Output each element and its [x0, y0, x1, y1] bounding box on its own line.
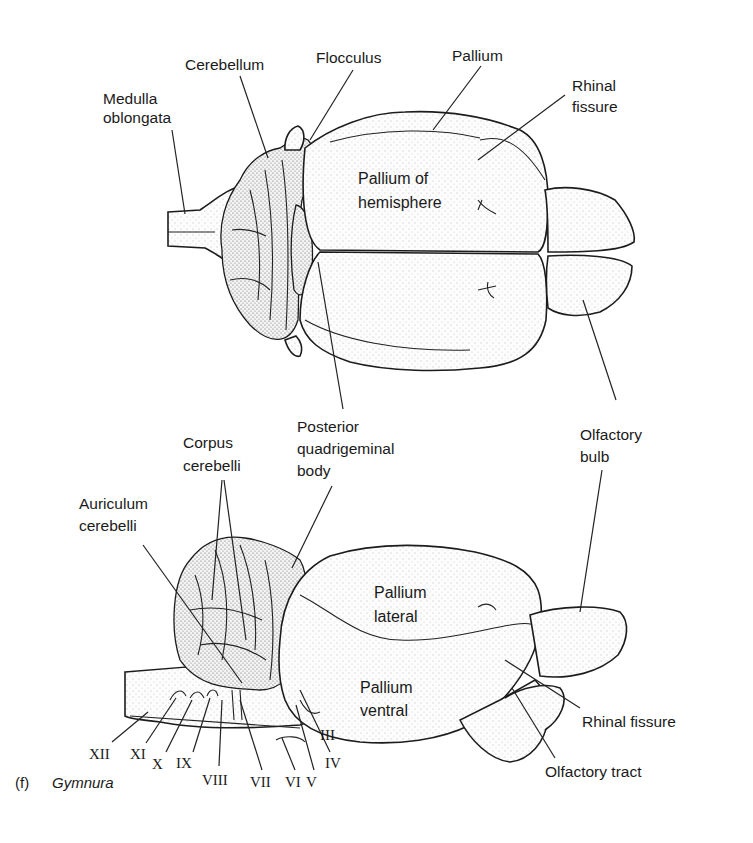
label-corpus-cerebelli: Corpus cerebelli: [183, 434, 241, 474]
label-flocculus: Flocculus: [316, 49, 382, 66]
olfactory-bulb-upper: [545, 188, 634, 252]
label-auriculum-cerebelli: Auriculum cerebelli: [79, 495, 152, 534]
caption-genus: Gymnura: [52, 774, 114, 791]
nerve-v: V: [306, 774, 317, 790]
brain-diagram: Medulla oblongata Cerebellum Flocculus P…: [0, 0, 753, 843]
label-olfactory-bulb: Olfactory bulb: [580, 426, 646, 465]
caption-letter: (f): [15, 774, 29, 791]
nerve-x: X: [152, 756, 163, 772]
olfactory-bulb-lower: [547, 255, 633, 315]
figure-caption: (f) Gymnura: [15, 774, 114, 791]
nerve-vii: VII: [250, 774, 271, 790]
label-cerebellum: Cerebellum: [185, 56, 264, 73]
label-olfactory-tract: Olfactory tract: [545, 763, 642, 780]
olfactory-bulb-lateral: [530, 607, 627, 677]
dorsal-view: [168, 112, 634, 371]
nerve-iii: III: [320, 727, 335, 743]
label-rhinal-fissure-lateral: Rhinal fissure: [582, 713, 676, 730]
nerve-xi: XI: [130, 746, 146, 762]
label-medulla-oblongata: Medulla oblongata: [103, 90, 171, 126]
label-rhinal-fissure-dorsal: Rhinal fissure: [572, 77, 620, 115]
nerve-vi: VI: [285, 774, 301, 790]
nerve-xii: XII: [89, 746, 110, 762]
right-hemisphere-shape: [300, 252, 547, 370]
nerve-viii: VIII: [202, 772, 228, 788]
label-pallium: Pallium: [452, 47, 503, 64]
nerve-iv: IV: [325, 755, 341, 771]
label-posterior-quadrigeminal: Posterior quadrigeminal body: [297, 418, 399, 479]
nerve-ix: IX: [176, 755, 192, 771]
